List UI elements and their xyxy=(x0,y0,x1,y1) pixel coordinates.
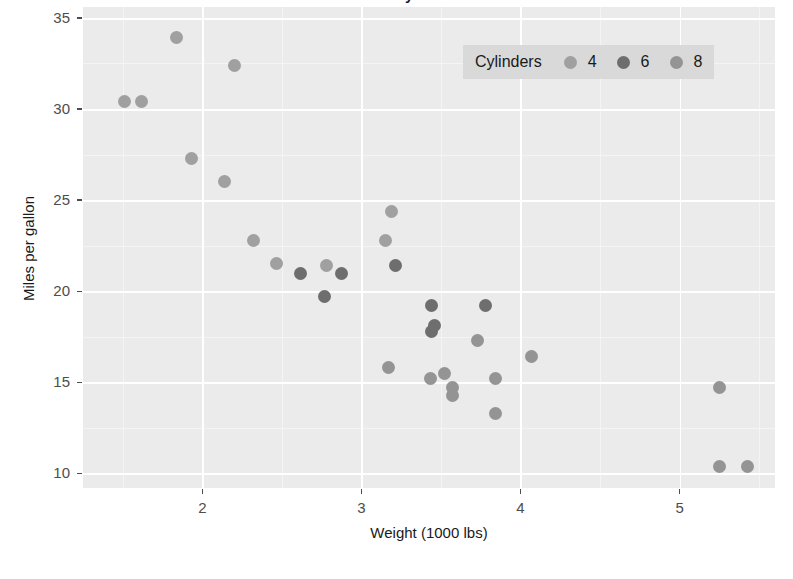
legend-key-dot xyxy=(617,56,630,69)
gridline-y-minor xyxy=(83,246,775,247)
data-point xyxy=(428,319,441,332)
data-point xyxy=(479,299,492,312)
plot-panel xyxy=(83,7,775,488)
data-point xyxy=(228,59,241,72)
x-tick-mark xyxy=(679,489,680,494)
gridline-x-minor xyxy=(759,7,760,488)
gridline-y-major xyxy=(83,18,775,20)
data-point xyxy=(270,257,283,270)
data-point xyxy=(320,259,333,272)
legend-key-dot xyxy=(670,56,683,69)
y-tick-mark xyxy=(77,199,82,200)
gridline-y-minor xyxy=(83,428,775,429)
x-tick-mark xyxy=(202,489,203,494)
y-axis-title: Miles per gallon xyxy=(20,129,37,369)
data-point xyxy=(170,31,183,44)
data-point xyxy=(385,205,398,218)
legend-item-label: 6 xyxy=(641,53,650,71)
data-point xyxy=(489,372,502,385)
y-tick-mark xyxy=(77,473,82,474)
y-tick-mark xyxy=(77,291,82,292)
scatter-plot-figure: Fuel Economy of 32 Automobiles 101520253… xyxy=(0,0,793,579)
data-point xyxy=(525,350,538,363)
data-point xyxy=(713,460,726,473)
legend: Cylinders 468 xyxy=(463,45,714,79)
data-point xyxy=(741,460,754,473)
y-tick-mark xyxy=(77,108,82,109)
gridline-x-minor xyxy=(123,7,124,488)
data-point xyxy=(118,95,131,108)
y-tick-label: 25 xyxy=(53,192,70,208)
legend-key-dot xyxy=(564,56,577,69)
data-point xyxy=(135,95,148,108)
gridline-x-minor xyxy=(441,7,442,488)
y-tick-label: 10 xyxy=(53,465,70,481)
gridline-x-major xyxy=(202,7,204,488)
data-point xyxy=(713,381,726,394)
data-point xyxy=(294,267,307,280)
gridline-x-major xyxy=(361,7,363,488)
legend-item: 4 xyxy=(564,53,597,71)
page-title: Fuel Economy of 32 Automobiles xyxy=(83,0,775,3)
data-point xyxy=(446,381,459,394)
data-point xyxy=(335,267,348,280)
gridline-x-major xyxy=(520,7,522,488)
legend-item-label: 8 xyxy=(694,53,703,71)
y-tick-label: 15 xyxy=(53,374,70,390)
gridline-x-minor xyxy=(600,7,601,488)
data-point xyxy=(382,361,395,374)
legend-title: Cylinders xyxy=(475,53,542,71)
x-tick-label: 5 xyxy=(660,499,700,516)
data-point xyxy=(425,299,438,312)
data-point xyxy=(218,175,231,188)
data-point xyxy=(389,259,402,272)
x-tick-mark xyxy=(520,489,521,494)
gridline-x-minor xyxy=(282,7,283,488)
gridline-x-major xyxy=(680,7,682,488)
gridline-y-major xyxy=(83,109,775,111)
data-point xyxy=(379,234,392,247)
gridline-y-major xyxy=(83,473,775,475)
x-tick-label: 4 xyxy=(500,499,540,516)
legend-item: 8 xyxy=(670,53,703,71)
gridline-y-major xyxy=(83,200,775,202)
x-tick-mark xyxy=(361,489,362,494)
x-tick-label: 3 xyxy=(341,499,381,516)
gridline-y-major xyxy=(83,291,775,293)
legend-item: 6 xyxy=(617,53,650,71)
y-tick-mark xyxy=(77,17,82,18)
y-tick-label: 30 xyxy=(53,101,70,117)
data-point xyxy=(438,367,451,380)
data-point xyxy=(185,152,198,165)
x-axis-title: Weight (1000 lbs) xyxy=(83,524,775,541)
data-point xyxy=(247,234,260,247)
y-tick-mark xyxy=(77,382,82,383)
data-point xyxy=(489,407,502,420)
legend-item-label: 4 xyxy=(588,53,597,71)
y-tick-label: 35 xyxy=(53,10,70,26)
data-point xyxy=(318,290,331,303)
x-tick-label: 2 xyxy=(182,499,222,516)
data-point xyxy=(471,334,484,347)
y-tick-label: 20 xyxy=(53,283,70,299)
